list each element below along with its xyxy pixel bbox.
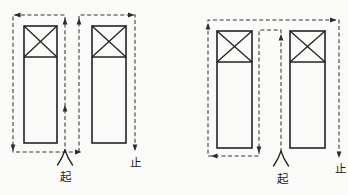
column-3-body bbox=[217, 31, 252, 148]
start-label: 起 bbox=[277, 172, 289, 186]
arrow-up-icon bbox=[279, 34, 284, 41]
arrow-down-icon bbox=[257, 147, 262, 154]
arrow-right-icon bbox=[75, 150, 82, 155]
column-2-body bbox=[92, 26, 126, 143]
arrow-down-icon bbox=[11, 145, 16, 152]
column-1-body bbox=[24, 26, 57, 143]
end-label: 止 bbox=[335, 162, 346, 176]
column-4-body bbox=[290, 31, 325, 148]
diagram-left: 起 止 bbox=[11, 13, 141, 184]
diagram-canvas: 起 止 bbox=[0, 0, 348, 195]
arrow-right-icon bbox=[128, 13, 135, 18]
diagram-right: 起 止 bbox=[206, 18, 346, 186]
arrow-left-icon bbox=[14, 13, 21, 18]
column-3 bbox=[217, 31, 252, 148]
start-label: 起 bbox=[60, 170, 72, 184]
arrow-up-icon bbox=[63, 18, 68, 25]
weld-sequence-figure: 起 止 bbox=[0, 0, 348, 195]
arrow-left-icon bbox=[211, 154, 218, 159]
column-4 bbox=[290, 31, 325, 148]
arrow-down-icon bbox=[133, 145, 138, 152]
arrow-right-icon bbox=[330, 18, 337, 23]
start-pointer-icon bbox=[274, 151, 289, 166]
column-2 bbox=[92, 26, 126, 143]
end-label: 止 bbox=[130, 156, 141, 170]
arrow-down-icon bbox=[337, 152, 342, 159]
arrow-up-icon bbox=[77, 18, 82, 25]
column-1 bbox=[24, 26, 57, 143]
arrow-up-icon bbox=[63, 105, 68, 112]
arrow-up-icon bbox=[206, 23, 211, 30]
